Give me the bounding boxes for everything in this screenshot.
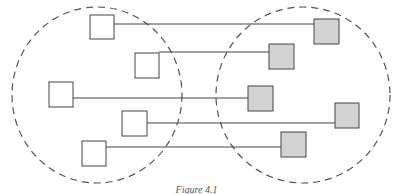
left-element-box-1 <box>90 15 114 39</box>
right-element-box-4 <box>335 103 359 128</box>
left-element-box-3 <box>49 82 73 107</box>
right-element-box-3 <box>248 86 273 111</box>
left-element-box-5 <box>82 141 106 166</box>
set-mapping-diagram <box>0 0 393 194</box>
left-element-box-2 <box>135 53 159 78</box>
left-element-box-4 <box>122 111 147 136</box>
right-element-box-1 <box>314 19 339 44</box>
right-element-box-5 <box>281 132 306 157</box>
right-element-box-2 <box>269 44 294 69</box>
figure-caption: Figure 4.1 <box>0 184 393 194</box>
